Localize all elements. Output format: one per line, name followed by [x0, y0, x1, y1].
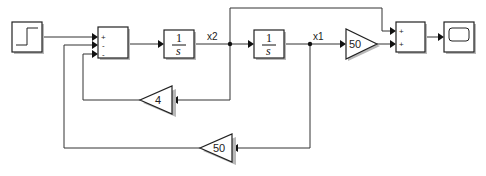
sum1-sign-3: - [102, 50, 105, 59]
junction-x1 [308, 42, 312, 46]
signal-label-x1: x1 [313, 31, 324, 42]
gain-forward-block[interactable]: 50 [346, 29, 380, 61]
integrator2-denominator: s [266, 44, 271, 58]
sum1-sign-2: - [102, 41, 105, 50]
gain-forward-value: 50 [349, 38, 361, 50]
integrator1-numerator: 1 [176, 31, 182, 45]
gain-feedback-x2-block[interactable]: 4 [140, 86, 176, 117]
sum1-block[interactable]: + - - [98, 27, 130, 60]
scope-screen-icon [449, 28, 469, 41]
scope-block[interactable] [444, 22, 476, 54]
sum2-sign-2: + [399, 40, 404, 49]
integrator1-block[interactable]: 1 s [164, 30, 196, 60]
sum2-sign-1: + [399, 27, 404, 36]
wire-gain50fb-to-sum1 [64, 45, 200, 148]
integrator1-denominator: s [176, 44, 181, 58]
junction-x2 [228, 42, 232, 46]
gain-feedback-x1-value: 50 [213, 142, 225, 154]
gain-feedback-x2-value: 4 [155, 94, 161, 106]
step-block[interactable] [12, 22, 44, 54]
wire-gain4-to-sum1 [83, 54, 140, 100]
sum2-block[interactable]: + + [396, 22, 427, 54]
integrator2-numerator: 1 [266, 31, 272, 45]
gain-feedback-x1-block[interactable]: 50 [200, 134, 236, 165]
integrator2-block[interactable]: 1 s [254, 30, 286, 60]
signal-label-x2: x2 [207, 31, 218, 42]
